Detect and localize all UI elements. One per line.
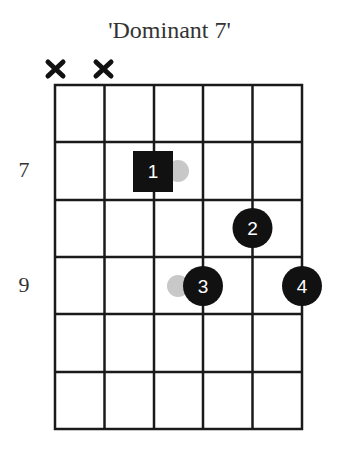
fretboard-grid (55, 85, 302, 429)
finger-marker-3: 3 (183, 266, 223, 306)
finger-number: 4 (297, 276, 308, 297)
finger-number: 1 (148, 161, 159, 182)
finger-marker-2: 2 (233, 208, 273, 248)
finger-number: 2 (247, 218, 258, 239)
finger-marker-1: 1 (133, 151, 173, 192)
muted-x-icon (96, 62, 111, 76)
chord-diagram: 1 2 3 4 (0, 0, 339, 452)
finger-number: 3 (198, 276, 209, 297)
muted-x-icon (48, 62, 63, 76)
finger-marker-4: 4 (282, 266, 322, 306)
